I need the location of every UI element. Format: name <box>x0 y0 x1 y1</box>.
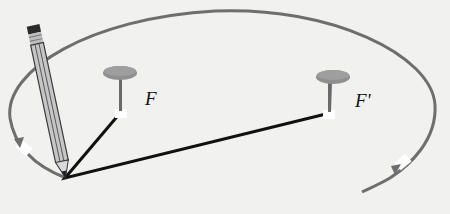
string <box>65 112 330 178</box>
focus-label-f-prime: F' <box>355 90 371 112</box>
focus-label-f: F <box>145 88 157 110</box>
ellipse-diagram <box>0 0 450 214</box>
pin-f-icon <box>103 66 137 111</box>
ellipse-curve <box>10 11 435 192</box>
pin-f-prime-icon <box>316 70 350 112</box>
